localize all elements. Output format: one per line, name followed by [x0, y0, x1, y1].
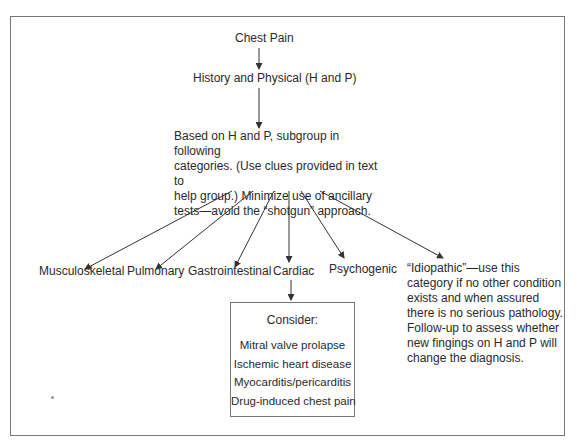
category-musculoskeletal: Musculoskeletal	[39, 264, 124, 279]
category-psychogenic: Psychogenic	[329, 262, 397, 277]
category-pulmonary: Pulmonary	[127, 264, 184, 279]
subgroup-line: categories. (Use clues provided in text …	[174, 159, 389, 189]
node-subgroup-instructions: Based on H and P, subgroup in following …	[174, 129, 389, 219]
idiopathic-line: “Idiopathic”—use this	[407, 261, 567, 276]
idiopathic-line: change the diagnosis.	[407, 351, 567, 366]
consider-item: Drug-induced chest pain	[231, 392, 354, 411]
category-cardiac: Cardiac	[273, 264, 314, 279]
consider-item: Mitral valve prolapse	[231, 336, 354, 355]
subgroup-line: tests—avoid the “shotgun” approach.	[174, 204, 389, 219]
consider-heading: Consider:	[231, 313, 354, 327]
idiopathic-line: category if no other condition	[407, 276, 567, 291]
consider-item: Myocarditis/pericarditis	[231, 373, 354, 392]
consider-box: Consider: Mitral valve prolapse Ischemic…	[230, 302, 355, 417]
idiopathic-line: exists and when assured	[407, 291, 567, 306]
idiopathic-line: Follow-up to assess whether	[407, 321, 567, 336]
idiopathic-line: new fingings on H and P will	[407, 336, 567, 351]
category-idiopathic: “Idiopathic”—use this category if no oth…	[407, 261, 567, 366]
subgroup-line: Based on H and P, subgroup in following	[174, 129, 389, 159]
subgroup-line: help group.) Minimize use of ancillary	[174, 189, 389, 204]
node-history-physical: History and Physical (H and P)	[193, 71, 356, 86]
consider-item: Ischemic heart disease	[231, 355, 354, 374]
category-gastrointestinal: Gastrointestinal	[188, 264, 271, 279]
node-chest-pain: Chest Pain	[235, 31, 294, 46]
idiopathic-line: there is no serious pathology.	[407, 306, 567, 321]
stray-mark	[51, 396, 54, 399]
